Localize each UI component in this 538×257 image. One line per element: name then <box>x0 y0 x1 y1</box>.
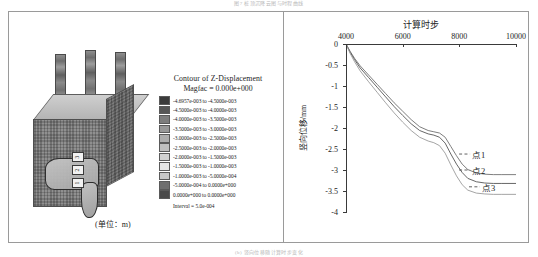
legend-color-swatch <box>159 115 170 124</box>
legend-entry-list: -4.6957e-003 to -4.5000e-003-4.5000e-003… <box>159 96 277 199</box>
y-axis-tick-label: -2.5 <box>325 145 338 154</box>
y-axis-tick <box>343 65 347 66</box>
plot-area: 竖向位移/mm 400060008000100000-0.5-1-1.5-2-2… <box>346 44 516 212</box>
chart-title: 计算时步 <box>284 18 530 31</box>
legend-entry: -4.5000e-003 to -4.0000e-003 <box>159 105 277 114</box>
legend-entry: -3.0000e-003 to -2.5000e-003 <box>159 134 277 143</box>
figure-frame: 3 2 1 (单位：m) Contour of Z-Displacement M… <box>8 11 529 243</box>
legend-color-swatch <box>159 106 170 115</box>
legend-color-swatch <box>159 96 170 105</box>
legend-entry-label: -3.0000e-003 to -2.5000e-003 <box>173 135 236 141</box>
block-side-face <box>106 84 134 187</box>
y-axis-tick <box>343 107 347 108</box>
legend-entry: -1.0000e-003 to -5.0000e-004 <box>159 171 277 180</box>
legend-entry-label: -2.0000e-003 to -1.5000e-003 <box>173 154 236 160</box>
data-curve <box>346 44 516 175</box>
x-axis-tick-label: 6000 <box>395 32 411 41</box>
unit-label: (单位：m) <box>95 218 131 229</box>
curve-annotation-label: 点2 <box>472 164 485 176</box>
y-axis-tick-label: -0.5 <box>325 61 338 70</box>
legend-entry: -4.0000e-003 to -3.5000e-003 <box>159 115 277 124</box>
x-axis-tick <box>516 44 517 47</box>
legend-color-swatch <box>159 162 170 171</box>
data-curve <box>346 44 516 194</box>
y-axis-tick <box>343 170 347 171</box>
left-panel-contour: 3 2 1 (单位：m) Contour of Z-Displacement M… <box>9 12 283 242</box>
y-axis-tick-label: -4 <box>331 208 338 217</box>
y-axis-tick <box>343 86 347 87</box>
y-axis-tick-label: -3.5 <box>325 187 338 196</box>
y-axis-tick-label: -1.5 <box>325 103 338 112</box>
legend-entry-label: -1.0000e-003 to -5.0000e-004 <box>173 173 236 179</box>
y-axis-tick-label: -3 <box>331 166 338 175</box>
x-axis-tick <box>403 44 404 47</box>
legend-title: Contour of Z-Displacement <box>159 74 277 83</box>
pile-mark-2: 2 <box>72 165 84 175</box>
legend-entry: -2.0000e-003 to -1.5000e-003 <box>159 152 277 161</box>
y-axis-tick-label: -2 <box>331 124 338 133</box>
data-curve <box>346 44 516 183</box>
legend-entry-label: -1.5000e-003 to -1.0000e-003 <box>173 163 236 169</box>
y-axis-label: 竖向位移/mm <box>297 105 308 152</box>
legend-entry-label: -4.0000e-003 to -3.5000e-003 <box>173 116 236 122</box>
legend-color-swatch <box>159 125 170 134</box>
legend-entry: -4.6957e-003 to -4.5000e-003 <box>159 96 277 105</box>
curve-annotation-label: 点3 <box>482 181 495 193</box>
legend-color-swatch <box>159 143 170 152</box>
y-axis-tick <box>343 149 347 150</box>
legend-entry: -5.0000e-004 to 0.0000e+000 <box>159 181 277 190</box>
legend-entry-label: -5.0000e-004 to 0.0000e+000 <box>173 182 236 188</box>
x-axis-tick <box>459 44 460 47</box>
x-axis-tick-label: 10000 <box>506 32 526 41</box>
legend-entry-label: -2.5000e-003 to -2.0000e-003 <box>173 145 236 151</box>
legend-entry-label: 0.0000e+000 to 0.0000e+000 <box>173 192 235 198</box>
legend-entry-label: -4.6957e-003 to -4.5000e-003 <box>173 98 236 104</box>
y-axis-tick <box>343 44 347 45</box>
legend-color-swatch <box>159 172 170 181</box>
contour-legend: Contour of Z-Displacement Magfac = 0.000… <box>159 74 277 209</box>
legend-color-swatch <box>159 153 170 162</box>
legend-color-swatch <box>159 181 170 190</box>
legend-entry: -3.5000e-003 to -3.0000e-003 <box>159 124 277 133</box>
y-axis-tick-label: -1 <box>331 82 338 91</box>
pile-mark-3: 3 <box>72 152 84 162</box>
curve-annotation-label: 点1 <box>472 148 485 160</box>
legend-entry-label: -3.5000e-003 to -3.0000e-003 <box>173 126 236 132</box>
y-axis-tick <box>343 128 347 129</box>
chart-title-text: 计算时步 <box>403 20 439 30</box>
legend-entry-label: -4.5000e-003 to -4.0000e-003 <box>173 107 236 113</box>
legend-color-swatch <box>159 134 170 143</box>
right-panel-chart: 计算时步 竖向位移/mm 400060008000100000-0.5-1-1.… <box>284 12 530 242</box>
y-axis-tick-label: 0 <box>334 40 338 49</box>
figure-caption-top: 图7 桩顶沉降云图与时程曲线 <box>0 0 538 7</box>
legend-entry: -2.5000e-003 to -2.0000e-003 <box>159 143 277 152</box>
legend-entry: -1.5000e-003 to -1.0000e-003 <box>159 162 277 171</box>
x-axis-tick-label: 4000 <box>338 32 354 41</box>
soil-block: 3 2 1 <box>33 94 155 216</box>
x-axis-tick-label: 8000 <box>451 32 467 41</box>
y-axis-tick <box>343 191 347 192</box>
pile-foundation-model: 3 2 1 <box>33 48 155 216</box>
pile-mark-1: 1 <box>72 178 84 188</box>
figure-caption-bottom: (b) 竖向位移随计算时步变化 <box>0 249 538 257</box>
legend-color-swatch <box>159 190 170 199</box>
legend-magfac: Magfac = 0.000e+000 <box>159 84 277 93</box>
y-axis-tick <box>343 212 347 213</box>
legend-entry: 0.0000e+000 to 0.0000e+000 <box>159 190 277 199</box>
figure-root: 图7 桩顶沉降云图与时程曲线 3 2 1 <box>0 0 538 257</box>
legend-interval: Interval = 5.0e-004 <box>173 203 277 209</box>
